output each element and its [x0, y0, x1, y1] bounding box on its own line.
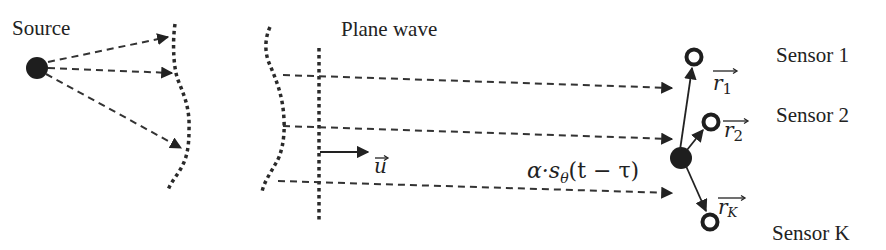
curved-wavefront-near [168, 24, 189, 190]
direction-vector-label: u [374, 154, 388, 178]
sensor-k-label: Sensor K [772, 221, 850, 245]
svg-text:r1: r1 [713, 71, 732, 98]
sensor-1-label: Sensor 1 [776, 43, 849, 67]
curved-wavefront-far [262, 27, 284, 192]
r1-label: r1 [713, 69, 737, 99]
source-point [26, 57, 48, 79]
svg-text:r2: r2 [724, 118, 743, 145]
vector-rk [686, 166, 706, 211]
sensor-k-node [703, 215, 718, 230]
ray-top [48, 37, 168, 62]
diagram-canvas: Source Plane wave u α·sθ(t − τ) [0, 0, 886, 250]
spherical-wave-rays [46, 37, 181, 148]
signal-args: (t − τ) [569, 158, 640, 183]
plane-ray-top [283, 75, 672, 88]
vector-r2 [687, 130, 703, 150]
r1-sub: 1 [723, 80, 733, 98]
ray-middle [48, 68, 172, 73]
sensor-1-node [687, 50, 702, 65]
ray-bottom [46, 74, 181, 148]
array-reference-point [670, 147, 692, 169]
svg-text:rK: rK [718, 195, 739, 220]
plane-ray-middle [283, 126, 672, 139]
rk-label: rK [718, 195, 745, 220]
sensor-2-node [704, 115, 719, 130]
vector-r1 [680, 68, 692, 150]
plane-wave-label: Plane wave [341, 17, 437, 41]
signal-alpha: α·s [527, 158, 560, 183]
source-label: Source [12, 16, 70, 40]
signal-expression: α·sθ(t − τ) [527, 158, 639, 186]
r2-label: r2 [723, 118, 748, 145]
sensor-2-label: Sensor 2 [776, 103, 849, 127]
svg-text:α·sθ(t − τ): α·sθ(t − τ) [527, 158, 639, 186]
r2-sub: 2 [734, 127, 744, 145]
rk-sub: K [727, 205, 739, 220]
